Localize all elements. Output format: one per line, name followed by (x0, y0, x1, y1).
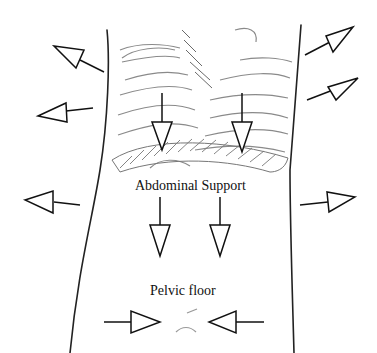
arrow-pelvic-left-icon (104, 311, 160, 333)
torso-sketch (0, 0, 377, 353)
arrow-diaphragm-left-icon (152, 93, 172, 150)
diaphragm (112, 139, 288, 172)
arrow-mid-left-icon (38, 103, 93, 122)
arrow-lower-right-icon (300, 192, 355, 212)
arrow-upper-left-icon (54, 46, 104, 72)
arrow-abdomen-left-icon (150, 197, 170, 256)
pelvic-floor-label: Pelvic floor (150, 283, 216, 299)
arrow-pelvic-right-icon (209, 311, 264, 333)
pelvic-floor-sketch (176, 309, 197, 332)
abdominal-support-label: Abdominal Support (135, 178, 246, 194)
arrow-mid-right-icon (307, 78, 358, 100)
arrow-upper-right-icon (305, 27, 353, 55)
abdominal-pressure-diagram: Abdominal Support Pelvic floor (0, 0, 377, 353)
arrow-lower-left-icon (25, 191, 80, 213)
sternum-hatch (182, 30, 212, 88)
arrow-abdomen-right-icon (210, 197, 230, 256)
arrow-diaphragm-right-icon (232, 93, 252, 152)
